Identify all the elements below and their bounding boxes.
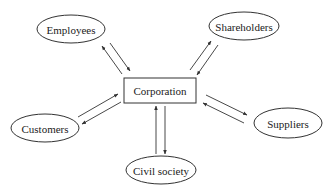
stakeholder-shareholders: Shareholders [209, 12, 279, 40]
arrow-employees-to-corporation [110, 43, 130, 71]
corporation-label: Corporation [133, 85, 187, 97]
stakeholder-civil-society: Civil society [126, 156, 196, 184]
stakeholder-suppliers: Suppliers [254, 108, 322, 138]
civil-society-label: Civil society [133, 165, 189, 177]
suppliers-label: Suppliers [267, 118, 309, 130]
stakeholder-employees: Employees [37, 15, 105, 43]
arrow-corporation-to-employees [102, 46, 122, 74]
arrow-corporation-to-suppliers [206, 95, 247, 115]
employees-label: Employees [47, 24, 96, 36]
stakeholder-customers: Customers [11, 114, 79, 142]
shareholders-label: Shareholders [215, 21, 272, 33]
customers-label: Customers [21, 123, 68, 135]
arrow-suppliers-to-corporation [203, 103, 244, 123]
corporation-node: Corporation [124, 78, 196, 103]
stakeholder-diagram: EmployeesShareholdersCustomersSuppliersC… [0, 0, 333, 191]
arrow-customers-to-corporation [78, 94, 118, 117]
arrow-corporation-to-customers [82, 102, 121, 124]
arrow-corporation-to-shareholders [190, 41, 211, 70]
arrow-shareholders-to-corporation [197, 45, 218, 75]
